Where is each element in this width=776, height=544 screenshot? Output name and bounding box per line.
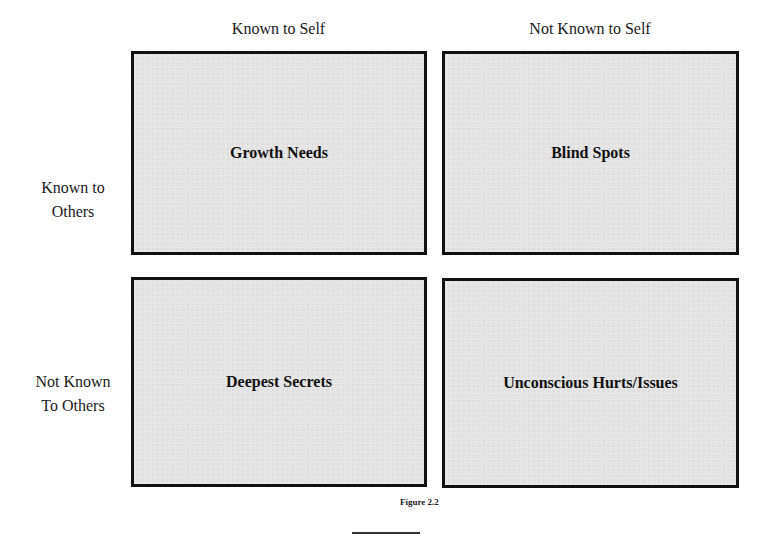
quadrant-deepest-secrets: Deepest Secrets (131, 277, 427, 487)
column-label-not-known-to-self: Not Known to Self (442, 20, 738, 38)
row-label-line-2: Others (18, 200, 128, 224)
quadrant-label: Growth Needs (230, 144, 328, 162)
divider-line (352, 532, 420, 534)
quadrant-label: Unconscious Hurts/Issues (503, 374, 678, 392)
quadrant-label: Blind Spots (551, 144, 630, 162)
quadrant-growth-needs: Growth Needs (131, 51, 427, 255)
row-label-known-to-others: Known to Others (18, 176, 128, 224)
row-label-not-known-to-others: Not Known To Others (18, 370, 128, 418)
row-label-line-1: Known to (18, 176, 128, 200)
row-label-line-1: Not Known (18, 370, 128, 394)
quadrant-label: Deepest Secrets (226, 373, 332, 391)
quadrant-blind-spots: Blind Spots (442, 51, 739, 255)
quadrant-unconscious-hurts-issues: Unconscious Hurts/Issues (442, 278, 739, 488)
row-label-line-2: To Others (18, 394, 128, 418)
figure-caption: Figure 2.2 (400, 497, 439, 507)
column-label-known-to-self: Known to Self (131, 20, 426, 38)
